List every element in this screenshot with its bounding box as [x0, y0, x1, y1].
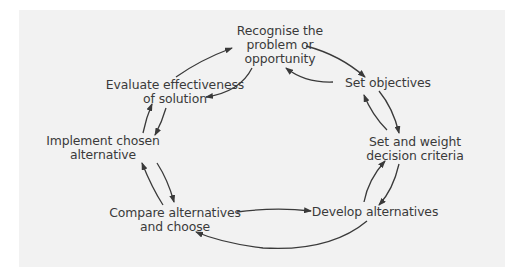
node-line: and choose	[108, 220, 242, 234]
node-line: Recognise the	[222, 24, 338, 38]
arrow-criteria-to-objectives	[364, 95, 387, 130]
node-line: opportunity	[222, 52, 338, 66]
node-line: alternative	[43, 148, 163, 162]
arrow-implement-to-evaluate	[143, 104, 152, 133]
node-line: Set and weight	[350, 135, 480, 149]
arrow-evaluate-to-implement	[155, 108, 166, 135]
node-line: Set objectives	[333, 76, 443, 90]
node-develop-alternatives: Develop alternatives	[310, 205, 440, 219]
node-line: Develop alternatives	[310, 205, 440, 219]
node-implement-alternative: Implement chosen alternative	[43, 134, 163, 162]
arrow-develop-to-criteria	[364, 161, 385, 202]
node-recognise-problem: Recognise the problem or opportunity	[222, 24, 338, 66]
node-line: decision criteria	[350, 149, 480, 163]
arrow-criteria-to-develop	[379, 164, 399, 205]
arrow-compare-to-develop	[237, 209, 311, 212]
node-line: Compare alternatives	[108, 206, 242, 220]
arrow-implement-to-compare	[157, 163, 174, 202]
node-line: of solution	[102, 92, 248, 106]
node-set-objectives: Set objectives	[333, 76, 443, 90]
arrow-compare-to-implement	[142, 163, 163, 205]
node-set-weight-criteria: Set and weight decision criteria	[350, 135, 480, 163]
node-line: Evaluate effectiveness	[102, 78, 248, 92]
arrow-objectives-to-criteria	[379, 91, 399, 133]
arrow-objectives-to-recognise	[286, 68, 333, 82]
node-line: Implement chosen	[43, 134, 163, 148]
node-compare-choose: Compare alternatives and choose	[108, 206, 242, 234]
node-line: problem or	[222, 38, 338, 52]
node-evaluate-effectiveness: Evaluate effectiveness of solution	[102, 78, 248, 106]
